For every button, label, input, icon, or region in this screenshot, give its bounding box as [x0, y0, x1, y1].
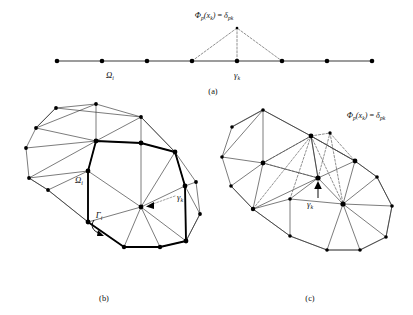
tent-peak-vertical	[311, 136, 318, 178]
subdomain-omega-i-boundary-bold	[88, 141, 186, 247]
panel-b: Ωi Γi γk (b)	[0, 98, 213, 315]
caption-a: (a)	[208, 87, 218, 96]
label-gamma-k-c: γk	[307, 199, 313, 210]
formula-phi-delta-a: Φp(xk)=δpk	[195, 11, 234, 21]
mesh-node-1d	[325, 59, 330, 64]
label-gamma-k-a: γk	[234, 70, 240, 81]
label-gamma-k-b: γk	[177, 192, 183, 203]
mesh-vertices-c	[220, 108, 394, 252]
panel-a: Φp(xk)=δpk Ωi γk	[0, 0, 413, 100]
tent-basis-function-dashed	[253, 131, 355, 209]
gamma-k-arrowhead-c	[314, 181, 322, 189]
mesh-node-1d	[235, 59, 240, 64]
panel-b-svg: Ωi Γi γk (b)	[0, 98, 213, 315]
panel-c-svg: Φp(xk)=δpk	[207, 98, 413, 315]
gamma-k-arrowhead	[146, 202, 154, 209]
hat-apex-node	[236, 27, 239, 30]
caption-b: (b)	[99, 294, 109, 303]
caption-c: (c)	[305, 294, 315, 303]
label-omega-i-b: Ωi	[75, 175, 83, 186]
mesh-node-1d	[55, 59, 60, 64]
panel-c: Φp(xk)=δpk	[207, 98, 413, 315]
mesh-edges-b	[26, 104, 200, 247]
mesh-node-1d	[190, 59, 195, 64]
label-gamma-i-b: Γi	[95, 210, 103, 221]
formula-phi-delta-c: Φp(xk)=δpk	[347, 111, 386, 121]
mesh-node-1d	[280, 59, 285, 64]
mesh-node-1d	[100, 59, 105, 64]
panel-a-svg: Φp(xk)=δpk Ωi γk	[0, 0, 413, 100]
figure-root: Φp(xk)=δpk Ωi γk	[0, 0, 413, 315]
mesh-node-1d	[145, 59, 150, 64]
mesh-node-1d	[370, 59, 375, 64]
mesh-edges-c	[222, 110, 392, 250]
label-omega-i-a: Ωi	[106, 70, 114, 81]
tent-apex-node	[328, 131, 331, 134]
